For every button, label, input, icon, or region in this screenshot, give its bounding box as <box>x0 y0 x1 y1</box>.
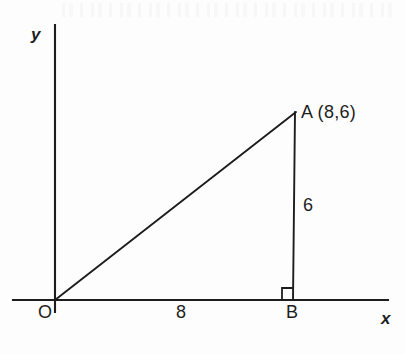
height-length-label: 6 <box>303 196 313 214</box>
diagram-canvas <box>0 0 405 354</box>
coordinate-geometry-figure: y x O B A (8,6) 8 6 <box>0 0 405 354</box>
leg-AB <box>293 112 295 300</box>
vertex-a-coordinates-label: A (8,6) <box>301 103 356 121</box>
vertex-b-label: B <box>286 303 298 321</box>
origin-label: O <box>38 303 52 321</box>
y-axis-label: y <box>31 26 40 43</box>
hypotenuse-OA <box>55 112 296 300</box>
base-length-label: 8 <box>176 303 186 321</box>
right-angle-marker <box>282 288 293 300</box>
x-axis-label: x <box>381 310 390 327</box>
